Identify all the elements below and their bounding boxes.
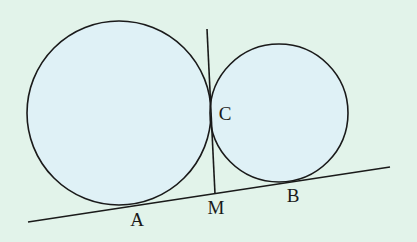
tangent-circles-diagram: A M B C (0, 0, 417, 242)
large-circle (27, 21, 211, 205)
point-label-a: A (130, 209, 144, 230)
point-label-m: M (208, 197, 225, 218)
point-label-b: B (287, 185, 300, 206)
point-label-c: C (219, 103, 232, 124)
